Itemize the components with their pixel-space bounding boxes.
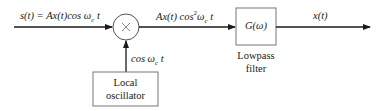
oscillator-label: Local oscillator — [93, 76, 158, 102]
output-signal-label: x(t) — [313, 11, 328, 22]
filter-transfer-label: G(ω) — [245, 21, 267, 32]
mixer-output-label: Ax(t) cos2ωc t — [156, 10, 213, 25]
input-signal-label: s(t) = Ax(t)cos ωc t — [20, 11, 100, 24]
multiplier-x-icon — [122, 23, 130, 31]
oscillator-output-label: cos ωc t — [131, 54, 164, 67]
filter-caption: Lowpass filter — [226, 49, 286, 75]
